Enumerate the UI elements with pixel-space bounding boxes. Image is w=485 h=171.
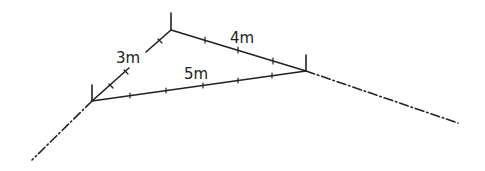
rope-triangle-diagram: 3m 4m 5m bbox=[0, 0, 485, 171]
side-label-3m: 3m bbox=[116, 49, 140, 67]
side-label-4m: 4m bbox=[230, 29, 254, 47]
extension-line-left bbox=[32, 101, 92, 160]
diagram-canvas: 3m 4m 5m bbox=[0, 0, 485, 171]
side-label-5m: 5m bbox=[184, 65, 208, 83]
side-3m-upper bbox=[146, 30, 171, 52]
extension-line-right bbox=[306, 71, 458, 123]
